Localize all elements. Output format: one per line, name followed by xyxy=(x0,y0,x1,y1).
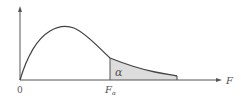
critical-value-subscript: α xyxy=(112,89,116,96)
density-curve xyxy=(20,26,177,80)
f-distribution-chart: 0 F Fα α xyxy=(0,0,241,99)
y-axis-arrow-icon xyxy=(18,6,22,12)
x-axis-arrow-icon xyxy=(216,78,222,82)
x-axis-label: F xyxy=(225,75,234,86)
tail-area-label: α xyxy=(115,66,123,79)
critical-value-label: Fα xyxy=(104,84,116,96)
origin-label: 0 xyxy=(17,85,23,95)
